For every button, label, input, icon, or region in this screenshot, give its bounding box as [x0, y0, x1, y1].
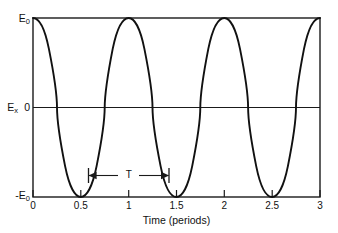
period-left-arrowhead [89, 172, 97, 180]
period-label: T [126, 169, 132, 180]
y-axis-title-subscript: x [14, 106, 18, 115]
chart-svg: T E0 Ex 0 -E0 0 0.5 1 1.5 2 2.5 3 Time (… [0, 0, 338, 233]
y-label-e0-subscript: 0 [26, 17, 30, 26]
y-label-neg-e0-symbol: -E [15, 189, 26, 201]
y-label-e0: E0 [19, 12, 30, 26]
x-tick-label-3: 3 [317, 200, 323, 211]
x-tick-label-2: 2 [222, 200, 228, 211]
x-tick-label-1p5: 1.5 [170, 200, 184, 211]
x-tick-label-0: 0 [30, 200, 36, 211]
y-axis-title: Ex [7, 101, 18, 115]
x-tick-label-2p5: 2.5 [265, 200, 279, 211]
y-axis-labels: E0 Ex 0 -E0 [7, 12, 30, 203]
y-tick-label-zero: 0 [24, 101, 30, 113]
x-tick-label-0p5: 0.5 [74, 200, 88, 211]
period-annotation: T [89, 168, 170, 183]
x-tick-label-1: 1 [126, 200, 132, 211]
y-label-neg-e0: -E0 [15, 189, 30, 203]
period-right-arrowhead [161, 172, 169, 180]
y-axis-title-symbol: E [7, 101, 14, 113]
x-axis-tick-labels: 0 0.5 1 1.5 2 2.5 3 [30, 200, 323, 211]
y-label-e0-symbol: E [19, 12, 26, 24]
x-axis-title: Time (periods) [143, 214, 210, 226]
chart-figure: T E0 Ex 0 -E0 0 0.5 1 1.5 2 2.5 3 Time (… [0, 0, 338, 233]
